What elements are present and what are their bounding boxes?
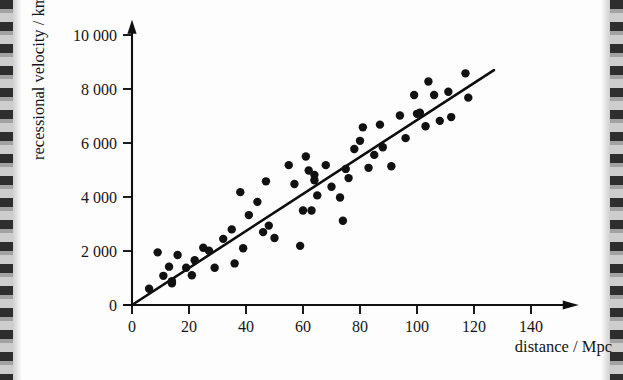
data-point [259, 228, 267, 236]
data-point [401, 134, 409, 142]
x-tick-label: 100 [405, 318, 429, 335]
data-point [424, 77, 432, 85]
data-point [376, 120, 384, 128]
data-point [145, 285, 153, 293]
y-axis-ticks [123, 35, 132, 305]
x-tick-label: 20 [181, 318, 197, 335]
y-axis-arrow-icon [127, 20, 136, 34]
data-point [219, 235, 227, 243]
data-point [327, 183, 335, 191]
data-point [307, 206, 315, 214]
data-point [310, 171, 318, 179]
data-point [210, 264, 218, 272]
data-point [239, 244, 247, 252]
data-point [165, 262, 173, 270]
data-point [205, 247, 213, 255]
data-point [313, 191, 321, 199]
data-point [421, 122, 429, 130]
data-point [344, 174, 352, 182]
data-point [296, 242, 304, 250]
data-point [461, 69, 469, 77]
x-tick-label: 40 [238, 318, 254, 335]
y-tick-label: 10 000 [73, 27, 117, 44]
x-tick-label: 120 [462, 318, 486, 335]
y-axis-tick-labels: 02 0004 0006 0008 00010 000 [73, 27, 117, 314]
data-point [447, 113, 455, 121]
data-point [416, 109, 424, 117]
scatter-plot: 020406080100120140 02 0004 0006 0008 000… [0, 0, 623, 380]
data-point [270, 234, 278, 242]
data-point [230, 259, 238, 267]
y-tick-label: 6 000 [81, 135, 117, 152]
data-point [168, 277, 176, 285]
x-axis-ticks [132, 305, 531, 314]
data-point [336, 193, 344, 201]
data-point [359, 123, 367, 131]
data-point [379, 143, 387, 151]
y-axis-title: recessional velocity / km s-1 [28, 0, 48, 160]
x-axis-arrow-icon [563, 300, 579, 309]
data-point [265, 221, 273, 229]
x-axis-tick-labels: 020406080100120140 [128, 318, 543, 335]
data-point [436, 117, 444, 125]
data-point [262, 177, 270, 185]
data-point [430, 91, 438, 99]
data-point [173, 251, 181, 259]
data-point [245, 211, 253, 219]
data-point [236, 188, 244, 196]
data-point [182, 264, 190, 272]
data-point [322, 161, 330, 169]
data-points-group [145, 69, 473, 293]
data-point [302, 152, 310, 160]
data-point [191, 256, 199, 264]
data-point [350, 145, 358, 153]
data-point [285, 161, 293, 169]
data-point [153, 248, 161, 256]
data-point [159, 272, 167, 280]
x-tick-label: 0 [128, 318, 136, 335]
y-tick-label: 4 000 [81, 189, 117, 206]
data-point [364, 164, 372, 172]
data-point [339, 217, 347, 225]
figure-page: 020406080100120140 02 0004 0006 0008 000… [0, 0, 623, 380]
x-tick-label: 140 [519, 318, 543, 335]
data-point [464, 93, 472, 101]
x-tick-label: 60 [295, 318, 311, 335]
data-point [299, 206, 307, 214]
x-axis-title: distance / Mpc [515, 337, 612, 356]
data-point [396, 111, 404, 119]
x-tick-label: 80 [352, 318, 368, 335]
data-point [444, 88, 452, 96]
chart-svg: 020406080100120140 02 0004 0006 0008 000… [0, 0, 623, 380]
data-point [188, 271, 196, 279]
data-point [253, 198, 261, 206]
data-point [410, 91, 418, 99]
y-tick-label: 0 [109, 297, 117, 314]
data-point [356, 137, 364, 145]
data-point [370, 151, 378, 159]
y-tick-label: 2 000 [81, 243, 117, 260]
data-point [342, 165, 350, 173]
data-point [387, 162, 395, 170]
data-point [228, 225, 236, 233]
data-point [290, 180, 298, 188]
y-tick-label: 8 000 [81, 81, 117, 98]
